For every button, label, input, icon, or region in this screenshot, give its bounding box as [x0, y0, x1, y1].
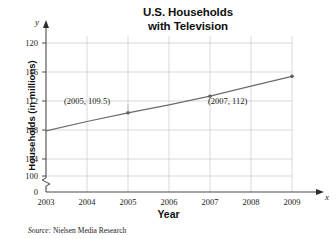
y-axis-ticks [42, 43, 46, 176]
source-note-text: Nielsen Media Research [53, 226, 126, 235]
annotation-label-2007: (2007, 112) [208, 96, 247, 106]
source-note: Source: Nielsen Media Research [28, 226, 126, 235]
gridlines-vertical [87, 36, 292, 192]
y-axis-line [43, 20, 49, 192]
source-note-prefix: Source: [28, 226, 51, 235]
y-axis-break-icon [42, 178, 50, 186]
chart-plot-area [0, 0, 336, 239]
annotation-label-2005: (2005, 109.5) [64, 96, 110, 106]
x-axis-line [46, 189, 324, 195]
chart-figure: U.S. Households with Television Househol… [0, 0, 336, 239]
data-point-marker-2009 [290, 74, 294, 78]
